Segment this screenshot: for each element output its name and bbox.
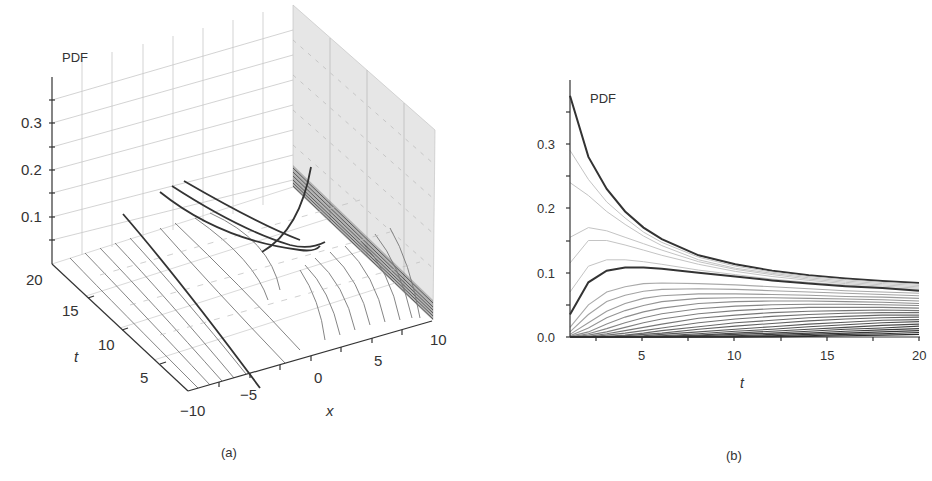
t-tick-20: 20	[26, 271, 43, 288]
b-x-axis-label: t	[740, 375, 745, 391]
x-axis-label: x	[325, 402, 334, 419]
x-axis	[188, 321, 432, 391]
series-line	[570, 289, 919, 332]
series-line	[570, 307, 919, 337]
z-tick-0.2: 0.2	[21, 161, 42, 178]
pdf-curves	[570, 96, 919, 337]
b-x-tick-5: 5	[638, 348, 645, 363]
x-tick-5: 5	[374, 352, 382, 369]
right-wall	[293, 5, 435, 320]
b-x-tick-15: 15	[820, 348, 834, 363]
z-axis-label: PDF	[62, 50, 88, 65]
t-axis-label: t	[74, 348, 79, 365]
series-line	[570, 228, 919, 287]
x-tick-10: 10	[430, 331, 447, 348]
t-tick-5: 5	[140, 369, 148, 386]
series-line	[570, 294, 919, 335]
series-line	[570, 241, 919, 289]
z-tick-0.3: 0.3	[21, 114, 42, 131]
t-tick-10: 10	[98, 336, 115, 353]
series-line	[570, 329, 919, 337]
t-axis	[52, 264, 188, 391]
b-y-tick-0.3: 0.3	[537, 137, 555, 152]
highlight-curves	[123, 167, 325, 388]
series-line	[570, 301, 919, 336]
x-tick-neg10: −10	[180, 402, 205, 419]
b-x-tick-10: 10	[727, 348, 741, 363]
b-y-tick-0.0: 0.0	[537, 330, 555, 345]
series-line	[570, 322, 919, 337]
caption-b: (b)	[726, 448, 742, 463]
t-tick-15: 15	[62, 302, 79, 319]
series-line	[570, 283, 919, 327]
chart-a-3d-surface: PDF 0.3 0.2 0.1 20 15 10 5 t −10 −5 0 5 …	[0, 0, 466, 481]
series-line	[570, 331, 919, 337]
series-line	[570, 317, 919, 337]
series-line	[570, 183, 919, 286]
series-line	[570, 304, 919, 337]
caption-a: (a)	[221, 445, 237, 460]
series-line	[570, 298, 919, 336]
x-tick-neg5: −5	[240, 386, 257, 403]
series-line	[570, 150, 919, 284]
b-y-axis-label: PDF	[590, 91, 616, 106]
series-line	[570, 313, 919, 337]
b-x-tick-20: 20	[912, 348, 926, 363]
series-line	[570, 96, 919, 283]
b-y-axis	[566, 80, 570, 337]
back-wall-grid	[52, 12, 293, 255]
x-tick-0: 0	[314, 369, 322, 386]
z-axis	[49, 77, 55, 264]
series-line	[570, 320, 919, 337]
b-y-tick-0.1: 0.1	[537, 266, 555, 281]
b-x-axis	[570, 337, 920, 341]
z-tick-0.1: 0.1	[21, 208, 42, 225]
series-line	[570, 310, 919, 337]
series-line	[570, 326, 919, 337]
series-line	[570, 324, 919, 337]
b-y-tick-0.2: 0.2	[537, 201, 555, 216]
series-line	[570, 260, 919, 292]
series-line	[570, 334, 919, 337]
series-line	[570, 268, 919, 315]
series-line	[570, 315, 919, 337]
series-line	[570, 333, 919, 338]
